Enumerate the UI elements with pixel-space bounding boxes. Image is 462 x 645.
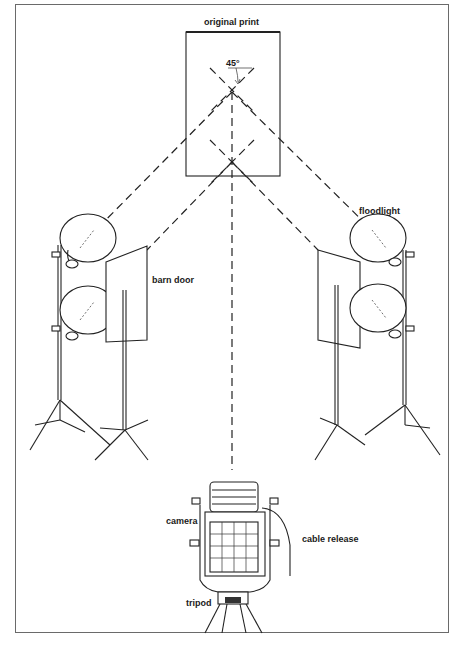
cable-release-label: cable release	[302, 534, 359, 544]
left-floodlight-stand	[30, 214, 116, 450]
floodlight-label: floodlight	[359, 206, 400, 216]
tripod	[205, 592, 262, 633]
original-print	[186, 32, 280, 185]
camera	[190, 482, 290, 592]
right-floodlight-stand	[350, 214, 440, 455]
tripod-label: tripod	[186, 598, 212, 608]
original-print-label: original print	[204, 17, 259, 27]
lighting-diagram	[0, 0, 462, 645]
left-barn-door	[95, 246, 148, 460]
right-barn-door	[315, 250, 365, 460]
barn-door-label: barn door	[152, 275, 194, 285]
camera-label: camera	[166, 516, 198, 526]
angle-label: 45°	[226, 58, 240, 68]
